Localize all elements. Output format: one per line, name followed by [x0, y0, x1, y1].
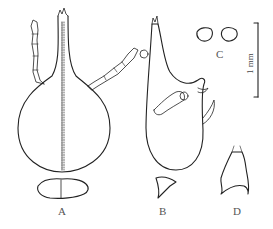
panel-c-structures: [197, 28, 237, 42]
illustration: [0, 0, 273, 229]
panel-label-b: B: [159, 206, 166, 217]
panel-a-pronotum: [38, 179, 89, 199]
panel-a-head: [18, 8, 138, 172]
panel-b-head: [140, 16, 214, 170]
figure: A B C D 1 mm: [0, 0, 273, 229]
panel-label-c: C: [216, 49, 223, 60]
panel-label-a: A: [58, 206, 66, 217]
panel-d-structure: [221, 146, 249, 194]
panel-label-d: D: [233, 206, 241, 217]
panel-b-structure: [156, 177, 176, 198]
scale-bar-label: 1 mm: [245, 53, 255, 74]
